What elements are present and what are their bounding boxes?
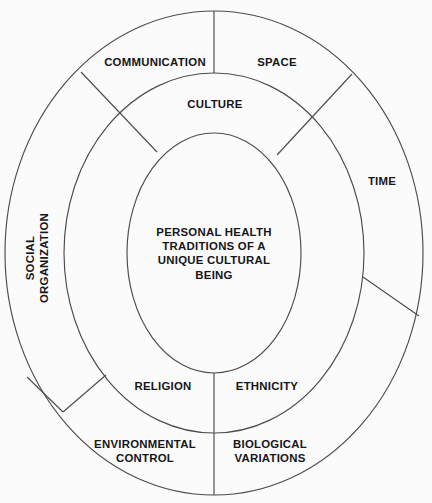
middle-segment-ethnicity: ETHNICITY bbox=[236, 380, 298, 394]
outer-segment-communication: COMMUNICATION bbox=[104, 56, 206, 70]
divider-lower-left bbox=[63, 375, 106, 412]
divider-lower-right bbox=[363, 277, 419, 316]
divider-upper-right bbox=[277, 74, 352, 155]
cultural-health-traditions-diagram: PERSONAL HEALTH TRADITIONS OF A UNIQUE C… bbox=[0, 0, 432, 503]
outer-segment-social-organization: SOCIAL ORGANIZATION bbox=[24, 213, 51, 303]
middle-segment-religion: RELIGION bbox=[134, 380, 191, 394]
core-label: PERSONAL HEALTH TRADITIONS OF A UNIQUE C… bbox=[156, 225, 271, 282]
outer-segment-biological-variations: BIOLOGICAL VARIATIONS bbox=[233, 438, 307, 465]
outer-segment-space: SPACE bbox=[257, 56, 297, 70]
outer-segment-time: TIME bbox=[368, 175, 396, 189]
divider-upper-left bbox=[81, 72, 157, 152]
divider-lower-left-outer bbox=[27, 377, 63, 412]
outer-segment-environmental-control: ENVIRONMENTAL CONTROL bbox=[94, 438, 196, 465]
middle-segment-culture: CULTURE bbox=[187, 98, 242, 112]
